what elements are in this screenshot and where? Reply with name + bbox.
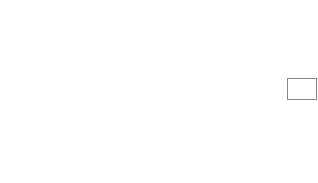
backgammon-board[interactable] bbox=[0, 0, 318, 183]
doubling-cube-box[interactable] bbox=[287, 78, 317, 100]
